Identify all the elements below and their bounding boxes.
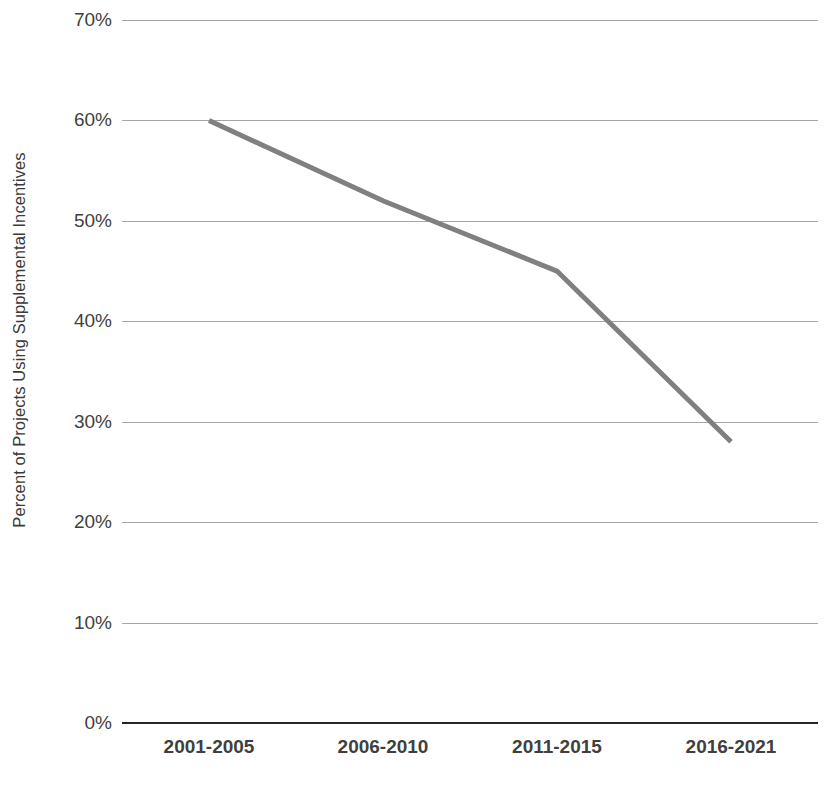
x-tick-label: 2011-2015	[467, 736, 647, 758]
y-tick-label: 50%	[2, 210, 112, 232]
plot-area	[122, 0, 818, 787]
line-chart: Percent of Projects Using Supplemental I…	[0, 0, 824, 787]
series-layer	[122, 0, 818, 787]
y-tick-label: 40%	[2, 310, 112, 332]
y-tick-label: 70%	[2, 9, 112, 31]
series-line-percent-projects	[209, 120, 731, 441]
y-tick-label: 20%	[2, 511, 112, 533]
x-tick-label: 2016-2021	[641, 736, 821, 758]
y-tick-label: 60%	[2, 109, 112, 131]
y-axis-tick-labels: 0%10%20%30%40%50%60%70%	[0, 0, 112, 787]
x-tick-label: 2006-2010	[293, 736, 473, 758]
x-tick-label: 2001-2005	[119, 736, 299, 758]
y-tick-label: 0%	[2, 712, 112, 734]
y-tick-label: 10%	[2, 612, 112, 634]
x-axis-tick-labels: 2001-20052006-20102011-20152016-2021	[122, 736, 818, 776]
y-tick-label: 30%	[2, 411, 112, 433]
